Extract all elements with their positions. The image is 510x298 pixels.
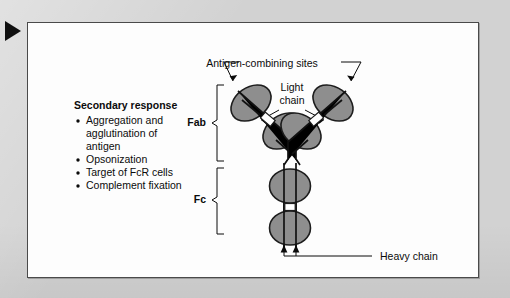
- bullet-line-1: Aggregation and: [86, 114, 163, 126]
- bullet-line-6: Complement fixation: [86, 179, 182, 191]
- play-triangle-marker-icon: [5, 21, 21, 41]
- bullet-line-3: antigen: [86, 140, 121, 152]
- fab-bracket: [212, 85, 224, 161]
- fc-hinge-gap: [285, 204, 295, 211]
- fc-domain-lower: [270, 211, 311, 245]
- bullet-dot: [76, 119, 79, 122]
- heavy-chain-label: Heavy chain: [380, 250, 438, 262]
- fab-label: Fab: [187, 116, 206, 128]
- figure-panel: Secondary response Aggregation and agglu…: [27, 22, 479, 278]
- fc-bracket: [212, 168, 224, 234]
- light-chain-label-line2: chain: [279, 94, 304, 106]
- light-chain-label-line1: Light: [281, 81, 304, 93]
- secondary-response-heading: Secondary response: [74, 99, 177, 111]
- antigen-combining-sites-label: Antigen-combining sites: [206, 57, 317, 69]
- bullet-dot: [76, 184, 79, 187]
- bullet-line-4: Opsonization: [86, 153, 147, 165]
- fc-label: Fc: [194, 193, 206, 205]
- antibody-diagram: Secondary response Aggregation and agglu…: [28, 23, 480, 279]
- bullet-line-5: Target of FcR cells: [86, 166, 173, 178]
- bullet-dot: [76, 158, 79, 161]
- heavy-chain-leader: [281, 245, 372, 256]
- arrowhead: [293, 245, 300, 253]
- secondary-response-bullet-list: Aggregation and agglutination of antigen…: [76, 114, 182, 191]
- arrowhead: [281, 245, 288, 253]
- bullet-line-2: agglutination of: [86, 127, 157, 139]
- bullet-dot: [76, 171, 79, 174]
- antigen-sites-leader-right: [341, 62, 361, 81]
- figure-page: Secondary response Aggregation and agglu…: [0, 0, 510, 298]
- fc-domain-upper: [270, 169, 311, 203]
